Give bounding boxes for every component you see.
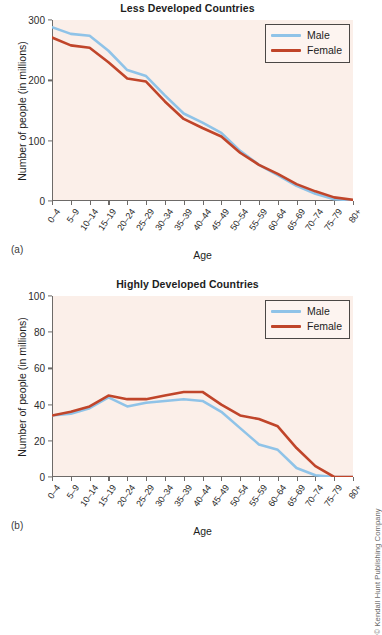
legend-item-male-a: Male	[271, 28, 342, 43]
y-tick-label: 20	[34, 435, 45, 446]
y-axis-title-b: Number of people (in millions)	[16, 302, 28, 472]
x-tick-mark	[90, 201, 91, 205]
x-tick-mark	[90, 477, 91, 481]
x-tick-mark	[184, 201, 185, 205]
x-tick-mark	[297, 201, 298, 205]
legend-a: Male Female	[265, 24, 350, 63]
x-tick-mark	[259, 477, 260, 481]
figure-less-developed-countries: Less Developed Countries Number of peopl…	[0, 0, 375, 276]
x-tick-mark	[334, 201, 335, 205]
x-tick-mark	[184, 477, 185, 481]
plot-area-b: Male Female	[52, 296, 353, 477]
x-tick-mark	[315, 201, 316, 205]
x-tick-mark	[221, 477, 222, 481]
x-tick-mark	[146, 477, 147, 481]
x-tick-mark	[353, 201, 354, 205]
y-tick-label: 200	[28, 75, 45, 86]
legend-swatch-male-a	[271, 34, 301, 37]
x-tick-mark	[71, 201, 72, 205]
x-tick-mark	[71, 477, 72, 481]
x-tick-mark	[108, 477, 109, 481]
copyright-notice: © Kendall Hunt Publishing Company	[373, 508, 382, 634]
legend-label-female-a: Female	[307, 45, 342, 56]
y-tick-label: 40	[34, 399, 45, 410]
y-tick-label: 300	[28, 15, 45, 26]
y-tick-label: 100	[28, 135, 45, 146]
legend-label-male-b: Male	[307, 306, 330, 317]
x-tick-mark	[127, 477, 128, 481]
x-tick-mark	[353, 477, 354, 481]
x-tick-label: 80+	[355, 471, 372, 489]
y-tick-label: 0	[39, 196, 45, 207]
legend-item-female-a: Female	[271, 43, 342, 58]
figure-highly-developed-countries: Highly Developed Countries Number of peo…	[0, 276, 375, 553]
x-tick-mark	[52, 201, 53, 205]
x-tick-mark	[315, 477, 316, 481]
plot-area-a: Male Female	[52, 20, 353, 201]
legend-b: Male Female	[265, 300, 350, 339]
x-tick-mark	[297, 477, 298, 481]
x-axis-title-b: Age	[52, 525, 353, 537]
y-axis-b: Number of people (in millions) 020406080…	[0, 296, 52, 477]
panel-label-b: (b)	[11, 520, 23, 531]
x-axis-title-a: Age	[52, 249, 353, 261]
x-tick-mark	[165, 477, 166, 481]
legend-label-female-b: Female	[307, 321, 342, 332]
x-tick-mark	[108, 201, 109, 205]
y-tick-label: 60	[34, 363, 45, 374]
chart-title-b: Highly Developed Countries	[0, 278, 375, 290]
chart-title-a: Less Developed Countries	[0, 2, 375, 14]
y-axis-a: Number of people (in millions) 010020030…	[0, 20, 52, 201]
x-tick-mark	[259, 201, 260, 205]
y-tick-label: 0	[39, 472, 45, 483]
x-tick-mark	[52, 477, 53, 481]
y-tick-label: 100	[28, 291, 45, 302]
x-tick-mark	[146, 201, 147, 205]
x-axis-a: 0–45–910–1415–1920–2425–2930–3435–3940–4…	[52, 201, 353, 247]
x-tick-mark	[240, 201, 241, 205]
x-tick-label: 80+	[355, 195, 372, 213]
x-tick-mark	[203, 477, 204, 481]
legend-label-male-a: Male	[307, 30, 330, 41]
x-tick-mark	[165, 201, 166, 205]
legend-item-female-b: Female	[271, 319, 342, 334]
x-tick-mark	[221, 201, 222, 205]
legend-swatch-female-b	[271, 325, 301, 328]
x-tick-mark	[278, 201, 279, 205]
x-tick-mark	[240, 477, 241, 481]
legend-item-male-b: Male	[271, 304, 342, 319]
x-tick-mark	[334, 477, 335, 481]
y-tick-label: 80	[34, 327, 45, 338]
x-tick-mark	[203, 201, 204, 205]
legend-swatch-male-b	[271, 310, 301, 313]
y-axis-title-a: Number of people (in millions)	[16, 26, 28, 196]
x-tick-mark	[127, 201, 128, 205]
panel-label-a: (a)	[11, 244, 23, 255]
x-axis-b: 0–45–910–1415–1920–2425–2930–3435–3940–4…	[52, 477, 353, 523]
legend-swatch-female-a	[271, 49, 301, 52]
x-tick-mark	[278, 477, 279, 481]
